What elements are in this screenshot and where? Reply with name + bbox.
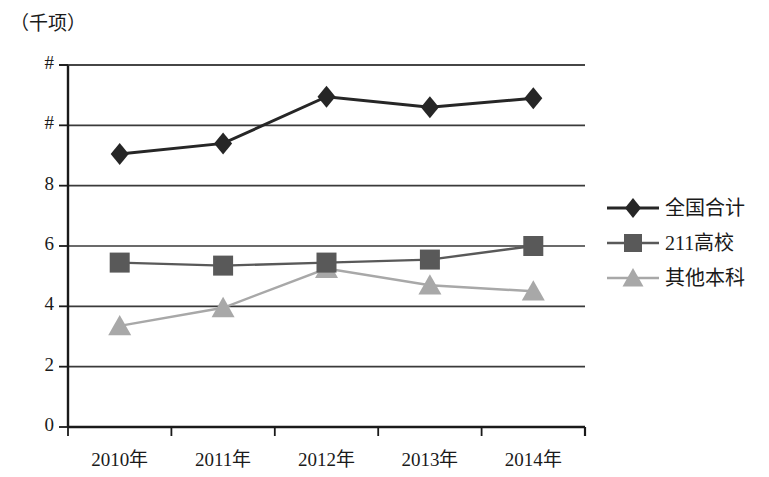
x-axis-tick-label: 2013年 — [378, 444, 481, 471]
legend-marker-diamond-icon — [605, 195, 661, 221]
data-point-diamond — [421, 96, 439, 118]
legend-item-label: 211高校 — [665, 233, 734, 253]
legend-item-2: 211高校 — [605, 225, 769, 260]
legend-item-label: 其他本科 — [665, 268, 745, 288]
y-axis-tick-label: 0 — [18, 414, 54, 436]
y-axis-tick-label: # — [18, 112, 54, 134]
legend-item-label: 全国合计 — [665, 198, 745, 218]
legend-swatch — [605, 195, 661, 221]
x-axis-tick-label: 2014年 — [482, 444, 585, 471]
x-axis-tick-label: 2010年 — [68, 444, 171, 471]
legend-swatch — [605, 230, 661, 256]
legend-marker-triangle-icon — [605, 265, 661, 291]
data-point-square — [420, 250, 440, 270]
data-point-square — [213, 256, 233, 276]
legend-swatch — [605, 265, 661, 291]
legend-square-icon — [624, 234, 642, 252]
legend-item-1: 全国合计 — [605, 190, 769, 225]
y-axis-tick-label: 8 — [18, 173, 54, 195]
data-point-diamond — [111, 143, 129, 165]
line-chart: （千项） 02468## 2010年2011年2012年2013年2014年 全… — [0, 0, 769, 477]
data-point-square — [523, 236, 543, 256]
data-point-square — [317, 253, 337, 273]
legend-marker-square-icon — [605, 230, 661, 256]
legend-diamond-icon — [625, 198, 641, 218]
y-axis-tick-label: 6 — [18, 233, 54, 255]
data-point-square — [110, 253, 130, 273]
y-axis-tick-label: 4 — [18, 293, 54, 315]
data-point-diamond — [524, 87, 542, 109]
data-point-diamond — [214, 132, 232, 154]
chart-legend: 全国合计211高校其他本科 — [605, 190, 769, 295]
data-point-diamond — [317, 86, 335, 108]
x-axis-tick-label: 2011年 — [171, 444, 274, 471]
y-axis-tick-label: # — [18, 52, 54, 74]
y-axis-tick-label: 2 — [18, 354, 54, 376]
legend-item-3: 其他本科 — [605, 260, 769, 295]
x-axis-tick-label: 2012年 — [275, 444, 378, 471]
